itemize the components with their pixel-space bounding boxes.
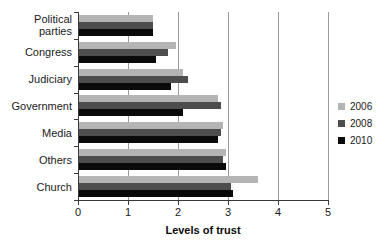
category-label: Congress bbox=[0, 46, 72, 58]
x-axis-tick bbox=[278, 200, 279, 205]
x-axis-tick-label: 1 bbox=[118, 206, 138, 218]
legend-swatch-icon bbox=[338, 103, 345, 110]
gridline-5 bbox=[328, 12, 329, 200]
y-axis-tick bbox=[74, 12, 79, 13]
bar bbox=[78, 190, 233, 197]
x-axis-tick-label: 3 bbox=[218, 206, 238, 218]
bar bbox=[78, 163, 226, 170]
category-label: Politicalparties bbox=[0, 13, 72, 37]
y-axis-tick bbox=[74, 93, 79, 94]
bar bbox=[78, 129, 221, 136]
bar bbox=[78, 156, 223, 163]
bar-group bbox=[78, 39, 328, 66]
bar bbox=[78, 122, 223, 129]
bar bbox=[78, 42, 176, 49]
bar bbox=[78, 56, 156, 63]
legend-item[interactable]: 2008 bbox=[338, 115, 372, 132]
category-label-line: Government bbox=[0, 100, 72, 112]
y-axis-tick bbox=[74, 39, 79, 40]
bar bbox=[78, 49, 168, 56]
bar bbox=[78, 29, 153, 36]
legend-label: 2010 bbox=[350, 135, 372, 146]
bar bbox=[78, 183, 231, 190]
category-label-line: Judiciary bbox=[0, 73, 72, 85]
category-label: Judiciary bbox=[0, 73, 72, 85]
x-axis-tick-label: 0 bbox=[68, 206, 88, 218]
category-label-line: Others bbox=[0, 154, 72, 166]
category-label: Media bbox=[0, 127, 72, 139]
x-axis-line bbox=[78, 200, 329, 201]
x-axis-tick-label: 5 bbox=[318, 206, 338, 218]
bar-group bbox=[78, 146, 328, 173]
x-axis-tick-label: 2 bbox=[168, 206, 188, 218]
y-axis-tick bbox=[74, 119, 79, 120]
legend: 200620082010 bbox=[338, 98, 372, 149]
x-axis-tick bbox=[128, 200, 129, 205]
bar bbox=[78, 15, 153, 22]
plot-area bbox=[78, 12, 328, 200]
category-label: Church bbox=[0, 181, 72, 193]
legend-label: 2008 bbox=[350, 118, 372, 129]
legend-swatch-icon bbox=[338, 137, 345, 144]
bar bbox=[78, 149, 226, 156]
bar bbox=[78, 176, 258, 183]
legend-item[interactable]: 2006 bbox=[338, 98, 372, 115]
legend-item[interactable]: 2010 bbox=[338, 132, 372, 149]
x-axis-tick bbox=[228, 200, 229, 205]
x-axis-tick bbox=[78, 200, 79, 205]
bar-group bbox=[78, 66, 328, 93]
bar bbox=[78, 83, 171, 90]
x-axis-tick bbox=[178, 200, 179, 205]
category-label: Others bbox=[0, 154, 72, 166]
category-label-line: Political bbox=[0, 13, 72, 25]
legend-swatch-icon bbox=[338, 120, 345, 127]
bar bbox=[78, 76, 188, 83]
bar-chart: PoliticalpartiesCongressJudiciaryGovernm… bbox=[0, 0, 390, 246]
category-label-line: parties bbox=[0, 25, 72, 37]
bar bbox=[78, 136, 218, 143]
x-axis-tick-label: 4 bbox=[268, 206, 288, 218]
bar bbox=[78, 109, 183, 116]
bar-group bbox=[78, 12, 328, 39]
bar-group bbox=[78, 173, 328, 200]
x-axis-title: Levels of trust bbox=[78, 224, 328, 236]
y-axis-tick bbox=[74, 146, 79, 147]
bar bbox=[78, 95, 218, 102]
x-axis-tick bbox=[328, 200, 329, 205]
bar bbox=[78, 102, 221, 109]
bar bbox=[78, 22, 153, 29]
category-label-line: Media bbox=[0, 127, 72, 139]
category-label: Government bbox=[0, 100, 72, 112]
bar bbox=[78, 69, 183, 76]
bar-group bbox=[78, 119, 328, 146]
y-axis-tick bbox=[74, 66, 79, 67]
legend-label: 2006 bbox=[350, 101, 372, 112]
category-label-line: Church bbox=[0, 181, 72, 193]
y-axis-tick bbox=[74, 173, 79, 174]
category-label-line: Congress bbox=[0, 46, 72, 58]
bar-group bbox=[78, 93, 328, 120]
